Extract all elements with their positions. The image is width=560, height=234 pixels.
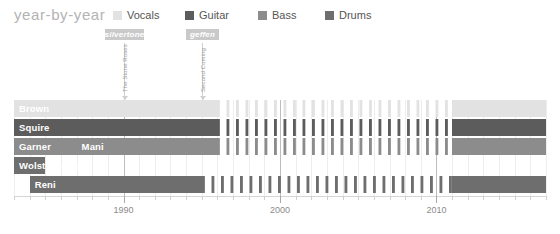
axis-tick-minor [264,196,265,200]
bar-segment-brown-solid[interactable] [452,100,546,117]
axis-tick-label-1990: 1990 [114,205,134,215]
bar-segment-squire-solid[interactable] [452,119,546,136]
axis-tick-minor [186,196,187,200]
gridline-minor [546,100,547,196]
axis-tick-minor [327,196,328,200]
timeline-row-mani[interactable]: Mani [14,138,546,155]
timeline-row-reni[interactable]: Reni [14,176,546,193]
x-axis: 199020002010 [14,196,546,226]
bar-segment-mani-striped[interactable] [217,138,452,155]
axis-tick-minor [296,196,297,200]
album-caption-silvertone: The Stone Roses [122,44,128,92]
axis-tick-minor [390,196,391,200]
axis-tick-minor [139,196,140,200]
axis-tick-minor [468,196,469,200]
axis-tick-minor [61,196,62,200]
bar-segment-squire-solid[interactable] [14,119,217,136]
year-by-year-chart: year-by-year VocalsGuitarBassDrums silve… [0,0,560,234]
axis-tick-minor [452,196,453,200]
axis-tick-minor [249,196,250,200]
axis-tick-label-2010: 2010 [426,205,446,215]
timeline-row-squire[interactable]: Squire [14,119,546,136]
bar-segment-reni-solid[interactable] [452,176,546,193]
axis-tick-minor [546,196,547,200]
legend-swatch-bass-icon [258,11,267,20]
legend-label: Bass [272,10,296,21]
axis-tick-minor [515,196,516,200]
axis-tick-minor [155,196,156,200]
axis-tick-minor [30,196,31,200]
axis-tick-minor [45,196,46,200]
bar-segment-squire-striped[interactable] [217,119,452,136]
chart-header: year-by-year VocalsGuitarBassDrums [0,0,560,28]
axis-tick-minor [108,196,109,200]
legend-item-guitar[interactable]: Guitar [185,8,229,22]
axis-tick-minor [499,196,500,200]
album-badge-silvertone[interactable]: silvertone [105,29,144,40]
axis-tick-minor [343,196,344,200]
legend-item-drums[interactable]: Drums [325,8,371,22]
axis-tick-minor [530,196,531,200]
axis-tick-minor [233,196,234,200]
axis-tick-minor [170,196,171,200]
bar-segment-reni-solid[interactable] [30,176,202,193]
axis-tick-minor [405,196,406,200]
legend-swatch-guitar-icon [185,11,194,20]
axis-tick-minor [374,196,375,200]
axis-tick-major [280,196,281,203]
bar-segment-brown-solid[interactable] [14,100,217,117]
legend-label: Vocals [127,10,159,21]
timeline-row-brown[interactable]: Brown [14,100,546,117]
legend-swatch-drums-icon [325,11,334,20]
axis-tick-minor [358,196,359,200]
axis-tick-minor [421,196,422,200]
axis-tick-minor [217,196,218,200]
legend-label: Drums [339,10,371,21]
legend-item-bass[interactable]: Bass [258,8,296,22]
bar-segment-brown-striped[interactable] [217,100,452,117]
legend-label: Guitar [199,10,229,21]
page-title: year-by-year [14,6,105,23]
axis-tick-major [124,196,125,203]
bar-segment-reni-striped[interactable] [202,176,452,193]
axis-tick-major [436,196,437,203]
axis-tick-label-2000: 2000 [270,205,290,215]
axis-tick-minor [14,196,15,200]
axis-tick-minor [77,196,78,200]
axis-tick-minor [202,196,203,200]
axis-tick-minor [311,196,312,200]
bar-segment-mani-solid[interactable] [452,138,546,155]
legend-item-vocals[interactable]: Vocals [113,8,159,22]
bar-segment-wolstencroft-solid[interactable] [14,157,45,174]
album-caption-geffen: Second Coming [200,48,206,92]
plot-area: BrownSquireGarnerManiWolstencroftReni [14,100,546,196]
axis-tick-minor [92,196,93,200]
album-badge-geffen[interactable]: geffen [186,29,219,40]
bar-segment-garner-solid[interactable] [14,138,77,155]
axis-tick-minor [483,196,484,200]
legend-swatch-vocals-icon [113,11,122,20]
bar-segment-mani-solid[interactable] [77,138,218,155]
